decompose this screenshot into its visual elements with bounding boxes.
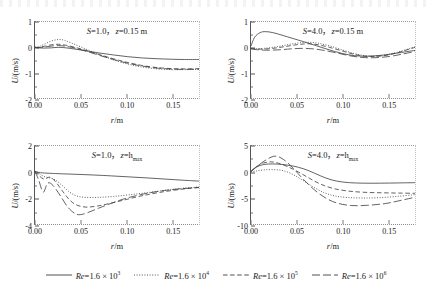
- panel-bottom-left: U/(m/s)S=1.0，z=hmax20-2-40.000.050.100.1…: [0, 135, 216, 257]
- legend-label: Re=1.6 × 103: [76, 270, 121, 281]
- legend-re-1e5: Re=1.6 × 105: [223, 270, 298, 281]
- curve-layer: [35, 22, 199, 98]
- y-tick-label: 0: [28, 44, 35, 53]
- legend-line-swatch: [134, 271, 160, 279]
- x-tick-label: 0.00: [244, 224, 258, 236]
- panel-top-right: U/(m/s)S=4.0，z=0.15 m10-1-20.000.050.100…: [216, 11, 432, 131]
- plot-area: 10-1-20.000.050.100.15: [34, 21, 200, 99]
- x-tick-label: 0.05: [74, 224, 88, 236]
- scan-artifact-strip: [0, 0, 432, 7]
- y-tick-label: 1: [28, 18, 35, 27]
- x-tick-label: 0.10: [336, 98, 350, 110]
- y-tick-label: -1: [25, 70, 35, 79]
- x-tick-label: 0.10: [336, 224, 350, 236]
- y-tick-label: 2: [28, 142, 35, 151]
- figure-legend: Re=1.6 × 103Re=1.6 × 104Re=1.6 × 105Re=1…: [0, 262, 432, 288]
- y-axis-label: U/(m/s): [10, 58, 20, 83]
- y-axis-label: U/(m/s): [226, 58, 236, 83]
- x-axis-label: r/m: [34, 241, 200, 251]
- curve-dashed: [35, 44, 199, 69]
- curve-dashed: [251, 162, 415, 193]
- x-tick-label: 0.15: [382, 224, 396, 236]
- y-axis-label: U/(m/s): [10, 183, 20, 208]
- x-tick-label: 0.10: [120, 224, 134, 236]
- curve-layer: [251, 22, 415, 98]
- y-tick-label: 0: [244, 168, 251, 177]
- curve-solid: [251, 164, 415, 183]
- x-tick-label: 0.05: [74, 98, 88, 110]
- y-axis-label: U/(m/s): [226, 183, 236, 208]
- curve-solid: [35, 171, 199, 181]
- legend-label: Re=1.6 × 106: [342, 270, 387, 281]
- legend-line-swatch: [312, 271, 338, 279]
- x-tick-label: 0.10: [120, 98, 134, 110]
- x-axis-label: r/m: [250, 241, 416, 251]
- curve-longdash: [35, 171, 199, 214]
- plot-area: 50-5-100.000.050.100.15: [250, 145, 416, 225]
- x-axis-label: r/m: [34, 115, 200, 125]
- curve-layer: [35, 146, 199, 224]
- y-tick-label: 1: [244, 18, 251, 27]
- legend-label: Re=1.6 × 105: [253, 270, 298, 281]
- y-tick-label: -5: [241, 195, 251, 204]
- x-tick-label: 0.00: [28, 224, 42, 236]
- y-tick-label: 5: [244, 142, 251, 151]
- legend-re-1e6: Re=1.6 × 106: [312, 270, 387, 281]
- x-tick-label: 0.15: [166, 224, 180, 236]
- curve-longdash: [251, 156, 415, 206]
- curve-layer: [251, 146, 415, 224]
- curve-longdash: [251, 48, 415, 57]
- x-axis-label: r/m: [250, 115, 416, 125]
- x-tick-label: 0.05: [290, 98, 304, 110]
- x-tick-label: 0.15: [382, 98, 396, 110]
- plot-area: 10-1-20.000.050.100.15: [250, 21, 416, 99]
- x-tick-label: 0.00: [244, 98, 258, 110]
- legend-label: Re=1.6 × 104: [164, 270, 209, 281]
- legend-re-1e3: Re=1.6 × 103: [46, 270, 121, 281]
- curve-dotted: [251, 170, 415, 198]
- x-tick-label: 0.00: [28, 98, 42, 110]
- legend-re-1e4: Re=1.6 × 104: [134, 270, 209, 281]
- figure-panel-grid: U/(m/s)S=1.0，z=0.15 m10-1-20.000.050.100…: [0, 7, 432, 260]
- y-tick-label: -1: [241, 70, 251, 79]
- curve-longdash: [35, 46, 199, 70]
- panel-top-left: U/(m/s)S=1.0，z=0.15 m10-1-20.000.050.100…: [0, 11, 216, 131]
- y-tick-label: 0: [28, 168, 35, 177]
- x-tick-label: 0.05: [290, 224, 304, 236]
- y-tick-label: -2: [25, 195, 35, 204]
- panel-bottom-right: U/(m/s)S=4.0，z=hmax50-5-100.000.050.100.…: [216, 135, 432, 257]
- y-tick-label: 0: [244, 44, 251, 53]
- legend-line-swatch: [223, 271, 249, 279]
- plot-area: 20-2-40.000.050.100.15: [34, 145, 200, 225]
- x-tick-label: 0.15: [166, 98, 180, 110]
- curve-dotted: [35, 171, 199, 197]
- curve-solid: [35, 47, 199, 59]
- legend-line-swatch: [46, 271, 72, 279]
